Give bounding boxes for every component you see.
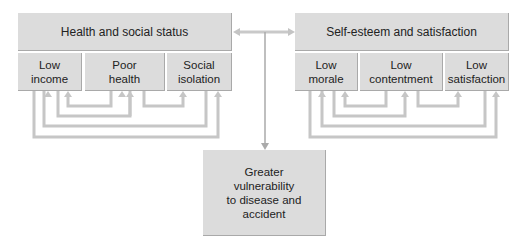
low-income-box: Lowincome [18, 53, 82, 91]
line1: Poor [112, 59, 136, 71]
line1: Low [39, 59, 60, 71]
left-feedback-loops [34, 90, 218, 137]
line2: contentment [369, 73, 432, 85]
line1: Social [183, 59, 214, 71]
line1: Low [390, 59, 411, 71]
line2: satisfaction [448, 73, 506, 85]
health-social-status-header: Health and social status [18, 13, 232, 51]
line3: to disease and [227, 194, 302, 206]
poor-health-box: Poorhealth [85, 53, 165, 91]
low-contentment-box: Lowcontentment [360, 53, 443, 91]
line1: Greater [245, 166, 284, 178]
line1: Low [466, 59, 487, 71]
line2: income [31, 73, 68, 85]
line2: vulnerability [234, 180, 295, 192]
self-esteem-satisfaction-header: Self-esteem and satisfaction [295, 13, 509, 51]
greater-vulnerability-box: Greater vulnerability to disease and acc… [203, 150, 326, 236]
line4: accident [243, 208, 286, 220]
header-label: Health and social status [61, 25, 188, 39]
low-morale-box: Lowmorale [295, 53, 358, 91]
right-feedback-loops [310, 90, 496, 137]
line2: health [109, 73, 140, 85]
social-isolation-box: Socialisolation [167, 53, 232, 91]
line1: Low [315, 59, 336, 71]
line2: morale [308, 73, 343, 85]
line2: isolation [178, 73, 220, 85]
header-label: Self-esteem and satisfaction [326, 25, 477, 39]
low-satisfaction-box: Lowsatisfaction [445, 53, 509, 91]
